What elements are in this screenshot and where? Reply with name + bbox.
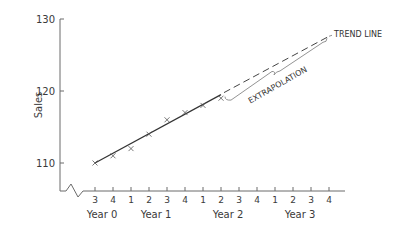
y-tick-label: 120 [36,86,55,97]
axes [60,19,345,197]
trend-line-leader [329,35,332,36]
x-tick-label: 1 [200,195,206,205]
x-tick-label: 3 [92,195,98,205]
data-point [219,96,224,101]
x-tick-label: 1 [128,195,134,205]
x-tick-label: 3 [236,195,242,205]
trend-line-chart: Sales 110120130 34123412341234 Year 0Yea… [0,0,415,233]
x-tick-label: 4 [182,195,188,205]
data-point [93,161,98,166]
y-tick-label: 130 [36,14,55,25]
trend-line-annotation: TREND LINE [333,30,382,39]
x-tick-label: 2 [290,195,296,205]
x-tick-label: 2 [146,195,152,205]
y-axis [60,19,345,197]
data-point [129,146,134,151]
data-point [165,117,170,122]
x-tick-label: 4 [326,195,332,205]
x-tick-label: 2 [218,195,224,205]
year-label: Year 1 [140,209,172,220]
year-label: Year 3 [284,209,316,220]
x-tick-label: 3 [164,195,170,205]
year-label: Year 0 [86,209,118,220]
x-tick-label: 1 [272,195,278,205]
extrapolation-annotation: EXTRAPOLATION [247,65,309,106]
data-point [111,153,116,158]
x-tick-label: 3 [308,195,314,205]
x-tick-label: 4 [254,195,260,205]
y-tick-label: 110 [36,158,55,169]
year-label: Year 2 [212,209,244,220]
x-tick-label: 4 [110,195,116,205]
